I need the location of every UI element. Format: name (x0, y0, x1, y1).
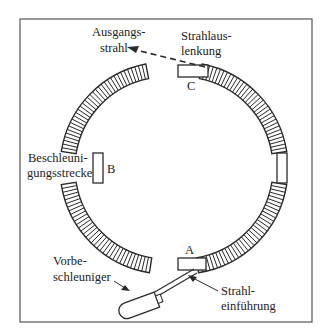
section-letter-C: C (187, 79, 195, 93)
section-letter-B: B (107, 162, 115, 176)
svg-text:gungsstrecke: gungsstrecke (27, 166, 93, 180)
svg-text:schleuniger: schleuniger (53, 270, 111, 284)
pre-accelerator-pointer-arrow (114, 281, 130, 291)
straight-section-right (277, 153, 287, 183)
svg-text:lenkung: lenkung (181, 44, 222, 58)
label-ausgangsstrahl: Ausgangs- strahl (92, 25, 145, 55)
svg-text:Strahlaus-: Strahlaus- (181, 29, 232, 43)
section-letter-A: A (185, 243, 194, 257)
pre-accelerator (117, 290, 165, 320)
label-strahlauslenkung: Strahlaus- lenkung (181, 29, 232, 58)
synchrotron-diagram: C A B Ausgangs- strahl Strahlaus- lenkun… (0, 0, 330, 336)
svg-text:strahl: strahl (100, 41, 128, 55)
injection-pointer-arrow (188, 275, 218, 291)
svg-text:Strahl-: Strahl- (221, 284, 255, 298)
svg-text:Vorbe-: Vorbe- (53, 254, 87, 268)
label-vorbeschleuniger: Vorbe- schleuniger (53, 254, 111, 284)
svg-text:Ausgangs-: Ausgangs- (92, 25, 145, 39)
straight-section-A (178, 258, 206, 270)
svg-text:einführung: einführung (221, 299, 277, 313)
label-strahleinfuehrung: Strahl- einführung (221, 284, 277, 313)
svg-text:Beschleuni-: Beschleuni- (28, 151, 88, 165)
label-beschleunigungsstrecke: Beschleuni- gungsstrecke (27, 151, 93, 180)
straight-section-B (93, 153, 103, 183)
